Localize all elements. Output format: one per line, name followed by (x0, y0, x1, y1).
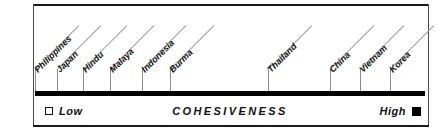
tick-stem (390, 69, 391, 91)
legend-high-label: High (380, 105, 406, 117)
legend-high-group: High (380, 100, 421, 122)
filled-square-icon (412, 107, 421, 116)
axis-title-cohesiveness: COHESIVENESS (35, 100, 425, 122)
tick-stem (57, 69, 58, 91)
cohesiveness-scale-figure: PhilippinesJapanHinduMalayaIndonesiaBurm… (0, 0, 437, 132)
category-label: Korea (387, 49, 412, 74)
category-label: Malaya (107, 46, 135, 74)
tick-stem (170, 69, 171, 91)
axis-legend-row: Low COHESIVENESS High (35, 100, 425, 122)
category-label: Vietnam (357, 43, 389, 75)
tick-stem (110, 69, 111, 91)
tick-stem (330, 69, 331, 91)
category-label: Thailand (265, 41, 298, 74)
category-label: Burma (167, 47, 194, 74)
tick-stem (83, 69, 84, 91)
cohesiveness-axis-bar (35, 91, 425, 96)
tick-stem (268, 69, 269, 91)
frame-rule-bottom (33, 125, 429, 127)
tick-stem (142, 69, 143, 91)
category-label: Hindu (80, 49, 105, 74)
tick-stem (360, 69, 361, 91)
tick-stem (35, 69, 36, 91)
category-label: China (327, 50, 352, 75)
